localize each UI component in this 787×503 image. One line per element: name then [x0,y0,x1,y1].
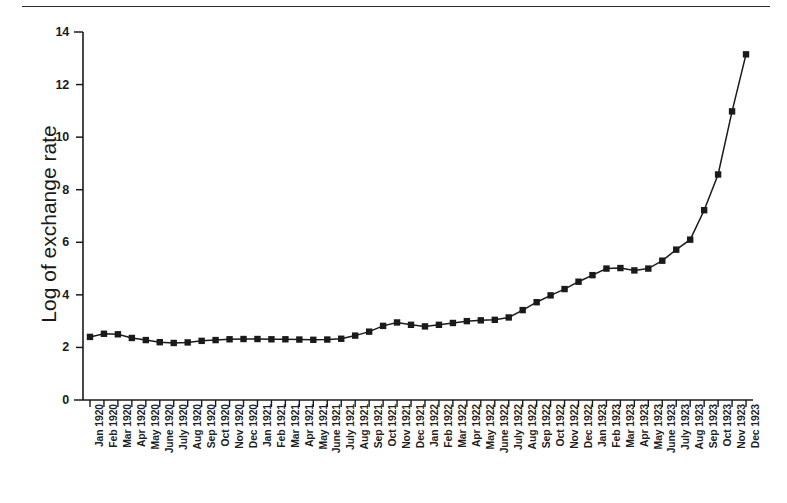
x-tick-label: June 1920 [164,404,177,500]
data-point-marker [171,340,177,346]
x-tick-label: July 1920 [178,404,191,500]
x-tick-label: Feb 1921 [276,404,289,500]
data-point-marker [310,337,316,343]
figure-container: Log of exchange rate 02468101214 Jan 192… [0,0,787,503]
data-point-marker [324,336,330,342]
data-point-marker [143,337,149,343]
x-tick-label: Oct 1923 [722,404,735,500]
x-tick-label: Apr 1921 [304,404,317,500]
x-tick-label: Mar 1920 [122,404,135,500]
x-tick-label: June 1922 [499,404,512,500]
data-point-marker [282,336,288,342]
data-point-marker [184,339,190,345]
data-point-marker [533,299,539,305]
data-point-marker [422,323,428,329]
data-point-marker [226,336,232,342]
data-point-marker [212,337,218,343]
data-point-marker [464,318,470,324]
data-point-marker [394,319,400,325]
data-point-marker [198,338,204,344]
x-tick-label: Dec 1922 [583,404,596,500]
series-line [90,54,746,343]
x-tick-label: July 1921 [345,404,358,500]
x-tick-label: June 1921 [331,404,344,500]
x-tick-label: Nov 1920 [234,404,247,500]
data-point-marker [547,292,553,298]
data-point-marker [380,323,386,329]
x-tick-label: Jan 1923 [597,404,610,500]
data-point-marker [687,236,693,242]
x-tick-label: Jan 1920 [94,404,107,500]
x-tick-label: Dec 1923 [750,404,763,500]
x-tick-label: Apr 1923 [639,404,652,500]
x-tick-label: Dec 1921 [415,404,428,500]
x-tick-label: Sep 1920 [206,404,219,500]
x-tick-label: Aug 1921 [359,404,372,500]
data-point-marker [631,267,637,273]
series-markers [87,51,749,346]
data-point-marker [129,335,135,341]
x-tick-label: Feb 1920 [108,404,121,500]
x-tick-label: May 1923 [653,404,666,500]
data-point-marker [338,336,344,342]
x-tick-label: Oct 1920 [220,404,233,500]
data-point-marker [115,331,121,337]
data-point-marker [296,336,302,342]
data-point-marker [268,336,274,342]
data-point-marker [87,334,93,340]
data-point-marker [506,314,512,320]
x-tick-label: July 1923 [680,404,693,500]
data-point-marker [352,332,358,338]
data-point-marker [673,246,679,252]
data-point-marker [659,257,665,263]
data-point-marker [254,336,260,342]
data-point-marker [450,320,456,326]
x-tick-label: May 1920 [150,404,163,500]
x-tick-label: Jan 1922 [429,404,442,500]
data-point-marker [101,331,107,337]
x-tick-label: May 1922 [485,404,498,500]
x-tick-label: Mar 1921 [290,404,303,500]
x-tick-label: Aug 1923 [694,404,707,500]
x-tick-label: Feb 1923 [611,404,624,500]
x-tick-label: Sep 1922 [541,404,554,500]
data-point-marker [603,265,609,271]
data-point-marker [645,265,651,271]
data-point-marker [408,322,414,328]
x-tick-label: Dec 1920 [248,404,261,500]
x-tick-label: Feb 1922 [443,404,456,500]
x-tick-label: July 1922 [513,404,526,500]
x-tick-label: Nov 1923 [736,404,749,500]
x-tick-label: Sep 1923 [708,404,721,500]
x-tick-label: Apr 1920 [136,404,149,500]
data-point-marker [589,272,595,278]
axes-group [83,32,753,400]
x-tick-label: Oct 1921 [387,404,400,500]
data-point-marker [743,51,749,57]
x-tick-label: June 1923 [666,404,679,500]
data-point-marker [617,265,623,271]
x-tick-label: Jan 1921 [262,404,275,500]
data-point-marker [436,322,442,328]
data-point-marker [478,317,484,323]
x-tick-label: Mar 1922 [457,404,470,500]
x-tick-label: Aug 1920 [192,404,205,500]
x-tick-label: Sep 1921 [373,404,386,500]
data-point-marker [715,171,721,177]
x-tick-label: Mar 1923 [625,404,638,500]
data-point-marker [519,307,525,313]
data-point-marker [561,286,567,292]
data-point-marker [575,279,581,285]
x-axis-tick-labels: Jan 1920Feb 1920Mar 1920Apr 1920May 1920… [0,404,787,503]
x-tick-label: Oct 1922 [555,404,568,500]
x-tick-label: Nov 1922 [569,404,582,500]
y-axis-tick-marks [74,32,83,400]
data-point-marker [366,328,372,334]
x-tick-label: May 1921 [318,404,331,500]
data-point-marker [492,317,498,323]
data-point-marker [157,339,163,345]
x-tick-label: Apr 1922 [471,404,484,500]
data-point-marker [240,336,246,342]
data-point-marker [729,108,735,114]
x-tick-label: Nov 1921 [401,404,414,500]
